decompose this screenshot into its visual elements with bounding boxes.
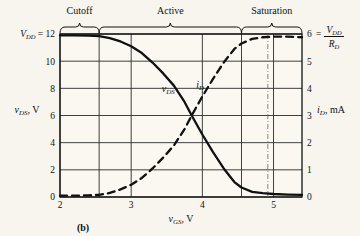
yaxis-right-tick-label: 1 — [307, 165, 312, 175]
region-label-saturation: Saturation — [251, 5, 292, 16]
yaxis-right-tick-label: 0 — [307, 192, 312, 202]
yaxis-right-tick-label: 5 — [307, 57, 312, 67]
yaxis-left-tick-label: 0 — [50, 192, 55, 202]
yaxis-left-tick-label: 10 — [46, 57, 56, 67]
figure-caption: (b) — [77, 222, 89, 234]
region-brace-cutoff — [60, 23, 99, 33]
figure-container: 23450246810012345VDD = 126=VDDRDvDS, ViD… — [0, 0, 360, 236]
region-label-cutoff: Cutoff — [67, 5, 94, 16]
yaxis-right-tick-label: 4 — [307, 84, 312, 94]
yaxis-left-tick-label: 4 — [50, 138, 55, 148]
xaxis-tick-label: 4 — [200, 200, 205, 210]
xaxis-tick-label: 3 — [129, 200, 134, 210]
yaxis-left-tick-label: 6 — [50, 111, 55, 121]
yaxis-left-tick-label: 2 — [50, 165, 55, 175]
region-brace-active — [99, 23, 241, 33]
yaxis-right-tick-label-6: 6 — [307, 29, 312, 39]
equals-sign: = — [316, 29, 321, 39]
xaxis-tick-label: 5 — [271, 200, 276, 210]
yaxis-left-tick-label: 8 — [50, 84, 55, 94]
vdd-numerator: VDD — [326, 25, 342, 36]
yaxis-right-tick-label: 2 — [307, 138, 312, 148]
yaxis-right-title: iD, mA — [317, 104, 346, 117]
yaxis-right-tick-label: 3 — [307, 111, 312, 121]
xaxis-tick-label: 2 — [58, 200, 63, 210]
region-brace-saturation — [242, 23, 303, 33]
rd-denominator: RD — [328, 39, 340, 50]
xaxis-title: vGS, V — [168, 213, 194, 226]
transfer-characteristic-chart: 23450246810012345VDD = 126=VDDRDvDS, ViD… — [0, 0, 360, 236]
region-label-active: Active — [157, 5, 184, 16]
vdd-top-annotation: VDD = 12 — [20, 29, 55, 40]
yaxis-left-title: vDS, V — [14, 104, 40, 117]
